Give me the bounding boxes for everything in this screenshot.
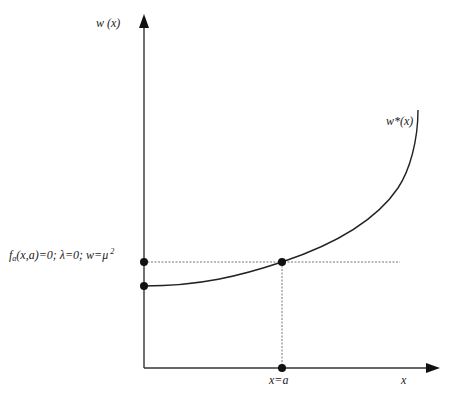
point-intercept-lower [140, 282, 148, 290]
condition-rest: (x,a)=0; λ=0; w=μ [16, 248, 108, 262]
y-axis-label: w (x) [96, 16, 120, 30]
condition-label: fa(x,a)=0; λ=0; w=μ2 [9, 247, 114, 263]
x-axis-arrow-icon [426, 363, 440, 373]
point-x-equals-a [278, 364, 286, 372]
point-intersection [278, 258, 286, 266]
x-axis-label: x [400, 373, 407, 387]
y-axis-arrow-icon [139, 14, 149, 28]
curve-label: w*(x) [386, 114, 413, 128]
x-marker-label: x=a [268, 373, 288, 387]
condition-superscript: 2 [110, 247, 114, 256]
point-intercept-upper [140, 258, 148, 266]
diagram-canvas: w (x) w*(x) x=a x fa(x,a)=0; λ=0; w=μ2 [0, 0, 450, 394]
